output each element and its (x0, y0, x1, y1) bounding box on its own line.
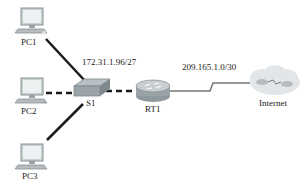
pc2-icon (15, 78, 47, 103)
pc1-label: PC1 (21, 37, 37, 47)
link-rt1-internet (170, 83, 250, 91)
pc2-label: PC2 (21, 106, 37, 116)
link-pc3-s1 (47, 104, 83, 140)
lan-network-label: 172.31.1.96/27 (82, 57, 136, 67)
link-pc1-s1 (46, 39, 86, 82)
topology-links (0, 0, 305, 189)
pc3-icon (15, 144, 47, 169)
router-rt1-icon (136, 80, 170, 102)
wan-network-label: 209.165.1.0/30 (182, 62, 236, 72)
internet-label: Internet (259, 98, 287, 108)
switch-s1-icon (74, 79, 110, 96)
internet-cloud-icon (250, 65, 300, 95)
pc3-label: PC3 (22, 171, 38, 181)
rt1-label: RT1 (145, 104, 160, 114)
pc1-icon (15, 8, 47, 35)
s1-label: S1 (86, 98, 96, 108)
network-diagram: PC1 PC2 PC3 S1 RT1 Internet 172.31.1.96/… (0, 0, 305, 189)
